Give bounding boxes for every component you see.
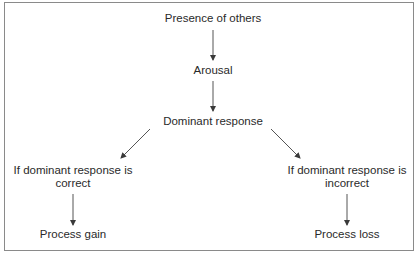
node-incorrect-line1: If dominant response is xyxy=(288,164,407,177)
node-incorrect-line2: incorrect xyxy=(325,177,369,190)
node-arousal: Arousal xyxy=(194,64,233,77)
arrow-dominant-to-correct xyxy=(121,129,150,158)
node-process-loss: Process loss xyxy=(314,228,379,241)
node-correct-line2: correct xyxy=(55,177,90,190)
arrows-layer xyxy=(0,0,419,256)
arrow-dominant-to-incorrect xyxy=(271,129,300,158)
node-process-gain: Process gain xyxy=(40,228,106,241)
node-presence-of-others: Presence of others xyxy=(165,12,262,25)
node-correct-line1: If dominant response is xyxy=(14,164,133,177)
node-dominant-response: Dominant response xyxy=(163,115,263,128)
